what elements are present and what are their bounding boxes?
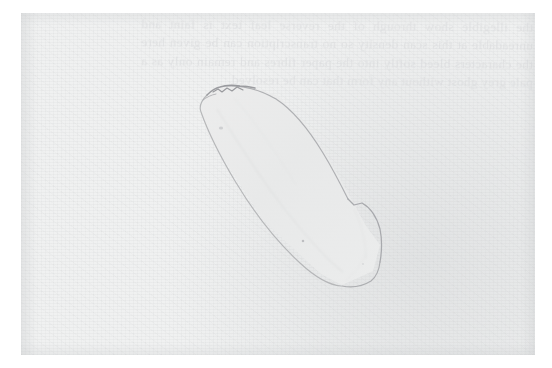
paper-texture bbox=[21, 13, 535, 355]
paper-sheet: the illegible show through of the revers… bbox=[21, 13, 535, 355]
artifact-outline bbox=[200, 86, 381, 287]
stone-tool-line-drawing bbox=[21, 13, 535, 355]
interior-pit-marks bbox=[219, 126, 364, 265]
scan-vignette bbox=[21, 13, 535, 355]
artifact-body bbox=[200, 86, 380, 285]
chipped-butt-end bbox=[203, 85, 255, 100]
scanned-page: the illegible show through of the revers… bbox=[0, 0, 552, 368]
artifact-facet-lines bbox=[217, 98, 366, 281]
ghost-showthrough-text: the illegible show through of the revers… bbox=[141, 15, 534, 92]
